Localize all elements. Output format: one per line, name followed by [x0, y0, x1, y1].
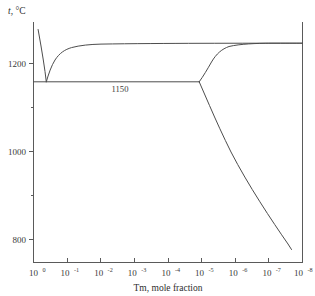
curve-liquidus-left-branch — [38, 30, 46, 82]
phase-diagram-figure: 1200 1000 800 10 0 10 -1 — [0, 0, 315, 296]
x-tick-mantissa-8: 10 — [294, 268, 304, 278]
x-tick-mantissa-2: 10 — [94, 268, 104, 278]
x-tick-exponent-1: -1 — [74, 266, 79, 273]
y-tick-labels: 1200 1000 800 — [8, 59, 27, 245]
x-tick-mantissa-6: 10 — [229, 268, 239, 278]
x-tick-exponent-8: -8 — [307, 266, 312, 273]
x-tick-mantissa-0: 10 — [29, 268, 39, 278]
x-tick-labels: 10 0 10 -1 10 -2 10 -3 10 -4 10 -5 — [29, 266, 313, 279]
x-tick-label-2: 10 -2 — [94, 266, 113, 279]
x-tick-label-1: 10 -1 — [61, 266, 80, 279]
x-tick-exponent-5: -5 — [209, 266, 214, 273]
x-tick-label-6: 10 -6 — [229, 266, 248, 279]
annotation-1150-label: 1150 — [112, 84, 129, 94]
x-tick-marks — [34, 258, 303, 263]
x-tick-mantissa-3: 10 — [128, 268, 138, 278]
x-tick-exponent-7: -7 — [276, 266, 281, 273]
x-tick-exponent-4: -4 — [175, 266, 180, 273]
x-tick-label-7: 10 -7 — [262, 266, 281, 279]
curve-solvus-lower-branch — [199, 82, 291, 250]
x-tick-mantissa-4: 10 — [162, 268, 172, 278]
x-axis-title: Tm, mole fraction — [134, 283, 203, 293]
y-tick-label-1200: 1200 — [8, 59, 27, 69]
x-tick-label-0: 10 0 — [29, 266, 46, 279]
inline-annotations: 1150 — [112, 84, 129, 94]
y-axis-title-unit: , °C — [11, 6, 26, 16]
axes-group — [33, 22, 303, 263]
plot-canvas: 1200 1000 800 10 0 10 -1 — [0, 0, 315, 296]
x-tick-label-4: 10 -4 — [162, 266, 181, 279]
y-tick-marks — [29, 64, 34, 240]
x-tick-mantissa-5: 10 — [195, 268, 205, 278]
data-curves — [34, 30, 303, 250]
x-tick-exponent-0: 0 — [42, 266, 45, 273]
x-tick-label-8: 10 -8 — [294, 266, 313, 279]
x-tick-mantissa-1: 10 — [61, 268, 71, 278]
x-tick-exponent-3: -3 — [141, 266, 146, 273]
x-tick-exponent-2: -2 — [108, 266, 113, 273]
x-tick-label-5: 10 -5 — [195, 266, 214, 279]
y-tick-label-800: 800 — [13, 235, 27, 245]
curve-solvus-upper-branch — [199, 43, 302, 82]
x-tick-label-3: 10 -3 — [128, 266, 147, 279]
y-axis-title: t, °C — [8, 6, 26, 16]
x-tick-exponent-6: -6 — [242, 266, 247, 273]
axis-titles: t, °C Tm, mole fraction — [8, 6, 203, 293]
x-tick-mantissa-7: 10 — [262, 268, 272, 278]
curve-liquidus-right-branch — [46, 43, 302, 82]
y-tick-label-1000: 1000 — [8, 147, 27, 157]
